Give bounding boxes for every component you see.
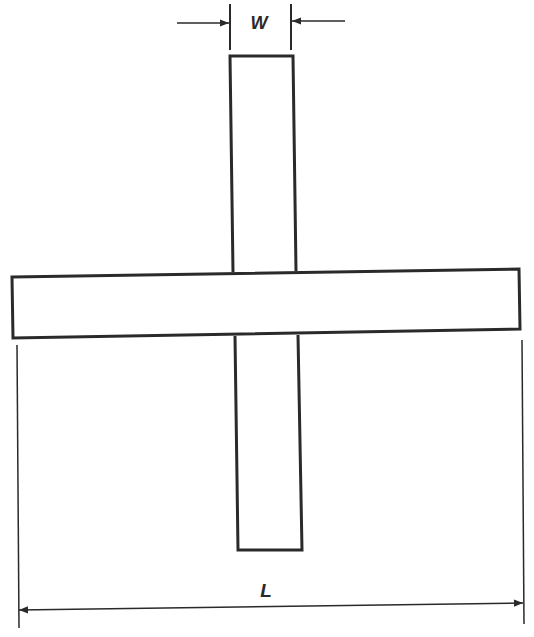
length-dimension: L <box>17 340 524 628</box>
cross-diagram: W L <box>0 0 534 637</box>
horizontal-bar <box>12 269 520 338</box>
width-label: W <box>251 13 270 33</box>
width-dimension: W <box>177 4 345 50</box>
length-label: L <box>260 580 272 601</box>
